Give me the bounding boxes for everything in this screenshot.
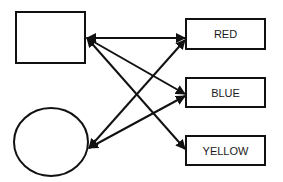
box-yellow: YELLOW [186,136,265,165]
square-shape [16,12,85,63]
arrow-circle-blue [89,96,185,148]
circle-shape [14,108,88,176]
box-yellow-label: YELLOW [203,145,249,157]
box-red-label: RED [214,28,237,40]
box-red: RED [186,19,265,49]
box-blue: BLUE [186,78,265,107]
box-blue-label: BLUE [211,87,240,99]
arrow-square-blue [87,38,185,94]
diagram-canvas: RED BLUE YELLOW [0,0,283,182]
